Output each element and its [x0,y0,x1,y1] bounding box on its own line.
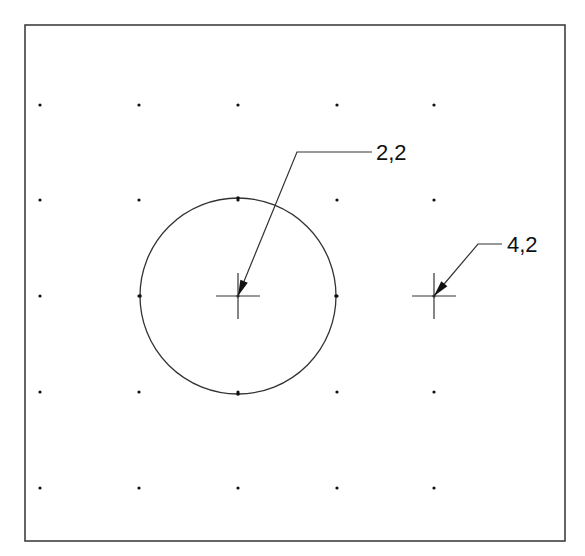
grid-dot [38,103,41,106]
grid-dot [335,103,338,106]
grid-dot [38,390,41,393]
drawing-frame [25,25,565,541]
quadrant-point [236,392,240,396]
grid-dot [432,103,435,106]
point-marker-p22: 2,2 [216,140,407,319]
grid-dot [236,486,239,489]
point-markers: 2,24,2 [216,140,538,319]
cad-drawing-canvas: 2,24,2 [0,0,585,556]
quadrant-point [138,294,142,298]
grid-dot [335,486,338,489]
grid-dot [137,198,140,201]
grid-dot [38,486,41,489]
coordinate-label: 4,2 [507,232,538,257]
arrowhead-icon [238,280,248,296]
coordinate-label: 2,2 [376,140,407,165]
grid-dot [432,198,435,201]
grid-dot [432,486,435,489]
grid-dot [137,390,140,393]
point-marker-p42: 4,2 [412,232,538,319]
quadrant-point [334,294,338,298]
grid-dot [38,198,41,201]
grid-dot [137,103,140,106]
grid-dot [236,103,239,106]
grid-dot [38,294,41,297]
quadrant-point [236,196,240,200]
grid-dot [335,390,338,393]
grid-dot [137,486,140,489]
grid-dot [432,390,435,393]
grid-dot [335,198,338,201]
